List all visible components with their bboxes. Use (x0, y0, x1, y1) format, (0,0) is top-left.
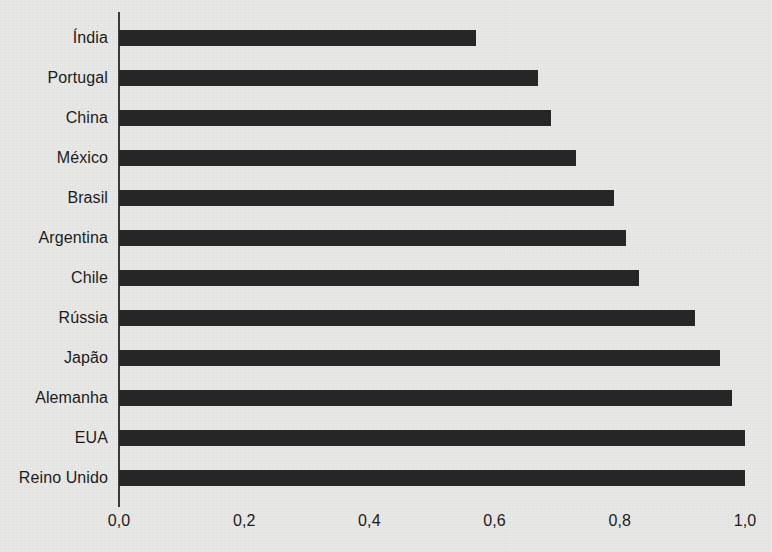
category-label-wrap: Rússia (0, 298, 108, 338)
x-axis-tick-label: 0,8 (609, 512, 632, 530)
category-label-wrap: Argentina (0, 218, 108, 258)
x-axis-tick-label: 0,4 (358, 512, 381, 530)
bar (119, 350, 720, 366)
category-label-wrap: Portugal (0, 58, 108, 98)
category-label: EUA (0, 430, 108, 446)
category-label-wrap: Chile (0, 258, 108, 298)
bar (119, 30, 476, 46)
category-label: Rússia (0, 310, 108, 326)
bar (119, 70, 538, 86)
category-label: Chile (0, 270, 108, 286)
x-axis-tick-label: 1,0 (734, 512, 757, 530)
bar (119, 110, 551, 126)
category-label: Índia (0, 30, 108, 46)
bar (119, 230, 626, 246)
bar (119, 430, 745, 446)
category-label: Japão (0, 350, 108, 366)
bar (119, 150, 576, 166)
category-label: México (0, 150, 108, 166)
x-axis-tick-label: 0,0 (108, 512, 131, 530)
category-label: Portugal (0, 70, 108, 86)
category-label-wrap: Índia (0, 18, 108, 58)
category-label-wrap: Alemanha (0, 378, 108, 418)
bar (119, 390, 732, 406)
x-axis-origin-tick (118, 500, 120, 507)
category-label: Alemanha (0, 390, 108, 406)
category-label: Argentina (0, 230, 108, 246)
category-label-wrap: Japão (0, 338, 108, 378)
category-label-wrap: China (0, 98, 108, 138)
category-label-wrap: Brasil (0, 178, 108, 218)
x-axis-tick-label: 0,6 (483, 512, 506, 530)
category-label: China (0, 110, 108, 126)
category-label-wrap: Reino Unido (0, 458, 108, 498)
category-label: Reino Unido (0, 470, 108, 486)
bar-chart: ÍndiaPortugalChinaMéxicoBrasilArgentinaC… (0, 0, 772, 552)
category-label-wrap: EUA (0, 418, 108, 458)
x-axis-tick-label: 0,2 (233, 512, 256, 530)
bar (119, 270, 639, 286)
bar (119, 310, 695, 326)
category-label-wrap: México (0, 138, 108, 178)
category-label: Brasil (0, 190, 108, 206)
plot-area: ÍndiaPortugalChinaMéxicoBrasilArgentinaC… (0, 0, 772, 552)
bar (119, 190, 614, 206)
bar (119, 470, 745, 486)
